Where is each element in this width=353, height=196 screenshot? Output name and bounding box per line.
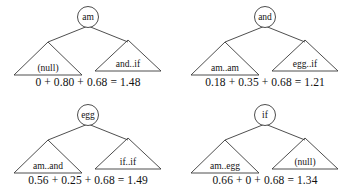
- subtree-label-left: am..and: [33, 161, 63, 171]
- root-node-label: if: [262, 110, 269, 120]
- root-node-label: am: [82, 12, 94, 22]
- cost-formula: 0 + 0.80 + 0.68 = 1.48: [0, 76, 176, 88]
- edge-right: [265, 26, 305, 42]
- tree-diagram: egg am..and if..if 0.56 + 0.25 + 0.68 = …: [0, 98, 176, 196]
- edge-right: [88, 124, 128, 140]
- cost-formula: 0.18 + 0.35 + 0.68 = 1.21: [177, 76, 353, 88]
- tree-diagram: am (null) and..if 0 + 0.80 + 0.68 = 1.48: [0, 0, 176, 98]
- subtree-label-left: am..egg: [210, 161, 240, 171]
- tree-diagram: and am..am egg..if 0.18 + 0.35 + 0.68 = …: [177, 0, 353, 98]
- edge-right: [88, 26, 128, 42]
- edge-left: [48, 124, 88, 140]
- root-node-label: egg: [81, 110, 95, 120]
- subtree-label-right: egg..if: [293, 59, 318, 69]
- subtree-label-right: if..if: [120, 157, 137, 167]
- edge-left: [225, 26, 265, 42]
- root-node-label: and: [258, 12, 272, 22]
- edge-right: [265, 124, 305, 140]
- cost-formula: 0.56 + 0.25 + 0.68 = 1.49: [0, 174, 176, 186]
- parse-tree-figure: am (null) and..if 0 + 0.80 + 0.68 = 1.48…: [0, 0, 353, 196]
- subtree-label-left: (null): [37, 63, 58, 74]
- subtree-label-left: am..am: [211, 63, 240, 73]
- subtree-label-right: and..if: [116, 59, 141, 69]
- cost-formula: 0.66 + 0 + 0.68 = 1.34: [177, 174, 353, 186]
- edge-left: [225, 124, 265, 140]
- subtree-label-right: (null): [294, 157, 315, 168]
- tree-diagram: if am..egg (null) 0.66 + 0 + 0.68 = 1.34: [177, 98, 353, 196]
- edge-left: [48, 26, 88, 42]
